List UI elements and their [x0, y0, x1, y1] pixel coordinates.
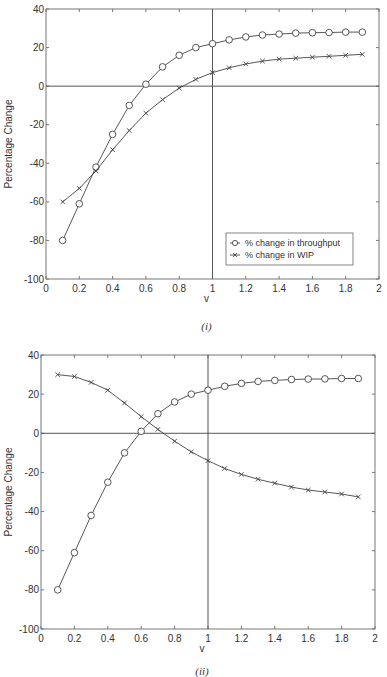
- circle-marker: [71, 549, 78, 556]
- x-marker: [110, 147, 115, 152]
- y-tick-label: -80: [25, 584, 40, 595]
- circle-marker: [59, 237, 66, 244]
- y-tick-label: -60: [30, 196, 45, 207]
- figure: 00.20.40.60.811.21.41.61.82-100-80-60-40…: [0, 0, 387, 677]
- circle-marker: [326, 29, 333, 36]
- x-marker: [144, 111, 149, 116]
- circle-marker: [171, 399, 178, 406]
- circle-marker: [226, 37, 233, 44]
- circle-marker: [121, 450, 128, 457]
- x-marker: [127, 128, 132, 133]
- circle-marker: [209, 40, 216, 47]
- x-marker: [60, 200, 65, 205]
- y-tick-label: -100: [19, 624, 39, 635]
- x-tick-label: 0.2: [72, 283, 86, 294]
- circle-marker: [342, 29, 349, 36]
- chart-i: 00.20.40.60.811.21.41.61.82-100-80-60-40…: [3, 4, 382, 334]
- x-marker: [194, 77, 199, 82]
- y-tick-label: 0: [33, 428, 39, 439]
- x-marker: [239, 472, 244, 477]
- circle-marker: [126, 102, 133, 109]
- y-axis-title: Percentage Change: [3, 99, 14, 188]
- y-tick-label: -20: [25, 467, 40, 478]
- circle-marker: [155, 410, 162, 417]
- x-tick-label: 1.2: [234, 633, 248, 644]
- circle-marker: [138, 428, 145, 435]
- x-tick-label: 0.2: [67, 633, 81, 644]
- circle-marker: [276, 31, 283, 38]
- x-tick-label: 2: [376, 283, 382, 294]
- circle-marker: [259, 32, 266, 39]
- circle-marker: [255, 378, 262, 385]
- x-tick-label: 1.6: [305, 283, 319, 294]
- x-marker: [77, 186, 82, 191]
- circle-marker: [159, 64, 166, 71]
- circle-marker: [93, 164, 100, 171]
- circle-marker: [305, 376, 312, 383]
- x-tick-label: 0.6: [134, 633, 148, 644]
- x-marker: [89, 380, 94, 385]
- x-marker: [160, 97, 165, 102]
- circle-marker: [243, 34, 250, 41]
- legend-circle-icon: [232, 240, 237, 245]
- legend-entry-label: % change in throughput: [245, 238, 341, 248]
- circle-marker: [238, 380, 245, 387]
- figure-caption: (ii): [195, 665, 209, 677]
- x-tick-label: 1.4: [268, 633, 282, 644]
- x-tick-label: 0: [43, 283, 49, 294]
- legend-entry-label: % change in WIP: [245, 250, 314, 260]
- x-tick-label: 0.4: [101, 633, 115, 644]
- x-tick-label: 1.8: [339, 283, 353, 294]
- circle-marker: [288, 376, 295, 383]
- circle-marker: [205, 387, 212, 394]
- x-tick-label: 0.6: [139, 283, 153, 294]
- circle-marker: [54, 587, 61, 594]
- legend: % change in throughput% change in WIP: [226, 233, 353, 265]
- y-tick-label: 40: [33, 4, 45, 15]
- x-axis-title: v: [200, 643, 205, 654]
- circle-marker: [88, 512, 95, 519]
- x-marker: [222, 466, 227, 471]
- x-tick-label: 1.4: [272, 283, 286, 294]
- x-tick-label: 2: [372, 633, 378, 644]
- x-marker: [106, 388, 111, 393]
- circle-marker: [105, 479, 112, 486]
- y-tick-label: 20: [28, 389, 40, 400]
- x-tick-label: 1.6: [301, 633, 315, 644]
- chart-ii: 00.20.40.60.811.21.41.61.82-100-80-60-40…: [3, 350, 378, 677]
- x-tick-label: 0.8: [168, 633, 182, 644]
- circle-marker: [338, 375, 345, 382]
- x-marker: [156, 427, 161, 432]
- circle-marker: [188, 391, 195, 398]
- y-tick-label: -60: [25, 545, 40, 556]
- y-tick-label: 40: [28, 350, 40, 361]
- y-tick-label: 0: [38, 81, 44, 92]
- circle-marker: [143, 81, 150, 88]
- x-tick-label: 0.4: [106, 283, 120, 294]
- x-marker: [122, 401, 127, 406]
- y-tick-label: -20: [30, 119, 45, 130]
- y-tick-label: -80: [30, 235, 45, 246]
- x-tick-label: 1.2: [239, 283, 253, 294]
- circle-marker: [272, 377, 279, 384]
- y-tick-label: -40: [30, 158, 45, 169]
- y-tick-label: -40: [25, 506, 40, 517]
- circle-marker: [76, 200, 83, 207]
- y-tick-label: -100: [24, 274, 44, 285]
- y-tick-label: 20: [33, 42, 45, 53]
- circle-marker: [322, 376, 329, 383]
- x-tick-label: 1: [210, 283, 216, 294]
- circle-marker: [355, 375, 362, 382]
- x-axis-title: v: [204, 293, 209, 304]
- x-tick-label: 0.8: [172, 283, 186, 294]
- y-axis-title: Percentage Change: [3, 447, 14, 536]
- circle-marker: [221, 383, 228, 390]
- circle-marker: [359, 29, 366, 36]
- x-marker: [139, 414, 144, 419]
- circle-marker: [176, 52, 183, 59]
- circle-marker: [193, 44, 200, 51]
- x-tick-label: 1.8: [335, 633, 349, 644]
- circle-marker: [309, 29, 316, 36]
- x-tick-label: 1: [205, 633, 211, 644]
- x-marker: [189, 450, 194, 455]
